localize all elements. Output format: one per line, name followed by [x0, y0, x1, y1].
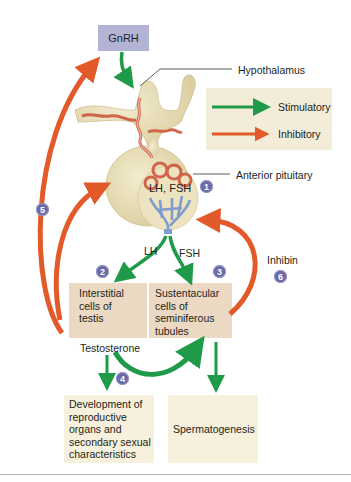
gnrh-label: GnRH	[108, 32, 139, 44]
badge-4: 4	[116, 372, 129, 385]
legend-inhibitory-label: Inhibitory	[278, 128, 321, 140]
fsh-label: FSH	[179, 247, 200, 259]
badge-6: 6	[274, 270, 287, 283]
hypothalamus-label: Hypothalamus	[238, 64, 305, 76]
badge-5: 5	[36, 203, 49, 216]
gnrh-box: GnRH	[98, 25, 149, 51]
lh-fsh-label: LH, FSH	[149, 182, 191, 194]
gnrh-arrow	[121, 52, 128, 80]
hypothalamus-illustration	[75, 75, 195, 150]
anterior-pituitary-label: Anterior pituitary	[236, 169, 312, 181]
legend-stimulatory-label: Stimulatory	[278, 101, 331, 113]
testosterone-inhibits-pituitary-arrow	[56, 188, 100, 320]
badge-3: 3	[213, 265, 226, 278]
badge-2: 2	[96, 265, 109, 278]
inhibin-label: Inhibin	[267, 254, 298, 266]
lh-label: LH	[144, 245, 157, 257]
testosterone-label: Testosterone	[80, 342, 140, 354]
badge-1: 1	[200, 180, 213, 193]
